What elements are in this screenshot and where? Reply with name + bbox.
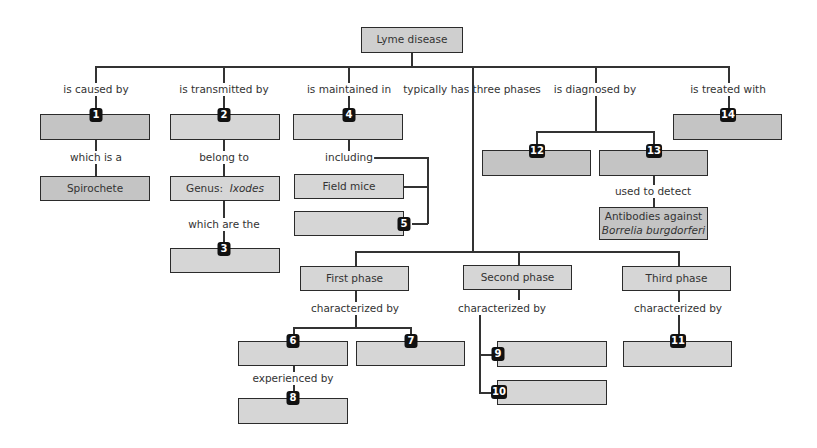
link-label: typically has three phases bbox=[402, 83, 542, 96]
link-label: is transmitted by bbox=[178, 83, 269, 96]
link-label: characterized by bbox=[310, 302, 400, 315]
node-label-line2: Borrelia burgdorferi bbox=[602, 224, 705, 237]
link-label: which are the bbox=[187, 218, 260, 231]
node-first-phase: First phase bbox=[300, 266, 409, 291]
link-label: is maintained in bbox=[306, 83, 392, 96]
genus-prefix: Genus: bbox=[186, 182, 226, 194]
node-label: First phase bbox=[326, 272, 383, 285]
number-badge-4: 4 bbox=[343, 108, 356, 122]
link-label: characterized by bbox=[633, 302, 723, 315]
node-9-blank[interactable] bbox=[497, 341, 607, 367]
link-label: including bbox=[324, 151, 374, 164]
number-badge-1: 1 bbox=[90, 108, 103, 122]
link-label: is treated with bbox=[689, 83, 767, 96]
number-badge-12: 12 bbox=[529, 144, 545, 158]
root-label: Lyme disease bbox=[376, 33, 447, 46]
node-second-phase: Second phase bbox=[463, 265, 572, 290]
number-badge-7: 7 bbox=[405, 334, 418, 348]
number-badge-8: 8 bbox=[287, 391, 300, 405]
connector bbox=[370, 157, 428, 159]
connector bbox=[355, 251, 679, 253]
node-label: Field mice bbox=[323, 180, 376, 193]
connector bbox=[595, 66, 597, 131]
link-label: characterized by bbox=[457, 302, 547, 315]
node-field-mice: Field mice bbox=[294, 174, 404, 199]
connector bbox=[355, 251, 357, 266]
node-label-line1: Antibodies against bbox=[605, 210, 703, 223]
node-third-phase: Third phase bbox=[622, 266, 731, 291]
node-antibodies: Antibodies againstBorrelia burgdorferi bbox=[599, 207, 708, 240]
connector bbox=[427, 157, 429, 224]
node-label: Spirochete bbox=[67, 182, 123, 195]
connector bbox=[403, 186, 428, 188]
link-label: which is a bbox=[69, 151, 123, 164]
root-node-lyme-disease: Lyme disease bbox=[361, 27, 463, 53]
number-badge-3: 3 bbox=[218, 242, 231, 256]
node-10-blank[interactable] bbox=[497, 380, 607, 405]
node-genus-ixodes: Genus: Ixodes bbox=[170, 176, 280, 201]
node-spirochete: Spirochete bbox=[40, 176, 150, 201]
number-badge-14: 14 bbox=[720, 108, 736, 122]
link-label: is caused by bbox=[62, 83, 129, 96]
connector bbox=[518, 290, 520, 300]
link-label: belong to bbox=[198, 151, 250, 164]
link-label: used to detect bbox=[614, 185, 692, 198]
number-badge-9: 9 bbox=[492, 347, 505, 361]
node-label: Third phase bbox=[646, 272, 708, 285]
connector bbox=[536, 131, 654, 133]
number-badge-5: 5 bbox=[398, 217, 411, 231]
node-label: Genus: Ixodes bbox=[186, 182, 264, 195]
connector bbox=[518, 251, 520, 265]
connector bbox=[412, 223, 428, 225]
node-label: Second phase bbox=[481, 271, 555, 284]
number-badge-11: 11 bbox=[670, 334, 686, 348]
connector bbox=[293, 327, 411, 329]
number-badge-13: 13 bbox=[646, 144, 662, 158]
link-label: experienced by bbox=[251, 372, 334, 385]
connector bbox=[411, 53, 413, 66]
number-badge-2: 2 bbox=[218, 108, 231, 122]
genus-name: Ixodes bbox=[230, 182, 264, 194]
node-5-blank[interactable] bbox=[294, 211, 404, 236]
link-label: is diagnosed by bbox=[553, 83, 637, 96]
number-badge-10: 10 bbox=[491, 385, 507, 399]
connector bbox=[678, 251, 680, 266]
connector bbox=[95, 66, 728, 68]
number-badge-6: 6 bbox=[287, 334, 300, 348]
